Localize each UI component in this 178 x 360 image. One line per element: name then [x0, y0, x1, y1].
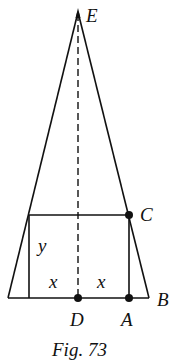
side-right: [78, 12, 149, 298]
label-e: E: [86, 6, 98, 25]
label-x-left: x: [49, 272, 57, 291]
label-x-right: x: [97, 272, 105, 291]
label-b: B: [157, 290, 169, 309]
label-d: D: [70, 310, 84, 329]
label-c: C: [140, 205, 153, 224]
point-a: [125, 294, 133, 302]
apex-marker: [76, 8, 81, 18]
point-d: [74, 294, 82, 302]
point-c: [125, 211, 133, 219]
label-y: y: [38, 236, 46, 255]
label-a: A: [121, 310, 133, 329]
figure-caption: Fig. 73: [52, 340, 107, 359]
